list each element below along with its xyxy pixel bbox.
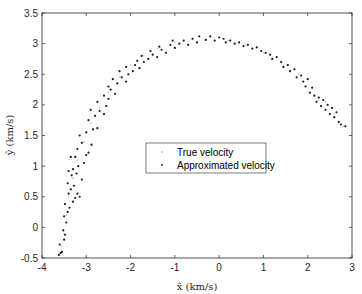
data-point: [141, 55, 143, 57]
data-point: [121, 76, 123, 78]
data-point: [329, 113, 331, 115]
data-point: [234, 43, 236, 45]
data-point: [76, 193, 78, 195]
x-tick-label: 1: [261, 262, 267, 273]
data-point: [75, 172, 77, 174]
data-point: [62, 229, 64, 231]
data-point: [79, 196, 81, 198]
data-point: [134, 64, 136, 66]
data-point: [65, 221, 67, 223]
data-point: [110, 88, 112, 90]
data-point: [143, 61, 145, 63]
data-point: [81, 142, 83, 144]
data-point: [335, 111, 337, 113]
data-point: [87, 119, 89, 121]
data-point: [320, 105, 322, 107]
data-point: [331, 107, 333, 109]
data-point: [160, 49, 162, 51]
legend-label-approximated-velocity: Approximated velocity: [177, 160, 275, 171]
data-point: [222, 38, 224, 40]
y-tick-label: 3: [32, 38, 38, 49]
data-point: [247, 44, 249, 46]
data-point: [125, 81, 127, 83]
y-tick-label: 0: [32, 222, 38, 233]
data-point: [298, 73, 300, 75]
legend-marker-true-velocity: [161, 151, 163, 153]
data-point: [94, 115, 96, 117]
y-tick-label: -0.5: [21, 253, 39, 264]
data-point: [333, 116, 335, 118]
data-point: [90, 122, 92, 124]
data-point: [322, 99, 324, 101]
data-point: [245, 45, 247, 47]
data-point: [315, 101, 317, 103]
data-point: [229, 39, 231, 41]
data-point: [149, 50, 151, 52]
legend: True velocity Approximated velocity: [146, 143, 275, 173]
data-point: [67, 211, 69, 213]
data-point: [112, 78, 114, 80]
data-point: [67, 170, 69, 172]
data-point: [165, 52, 167, 54]
data-point: [287, 64, 289, 66]
data-point: [172, 39, 174, 41]
data-point: [196, 41, 198, 43]
y-axis-label: ŷ (km/s): [4, 115, 15, 157]
data-point: [96, 101, 98, 103]
data-point: [73, 185, 75, 187]
data-point: [174, 47, 176, 49]
legend-marker-approximated-velocity: [161, 164, 163, 166]
data-point: [214, 39, 216, 41]
x-tick-label: 3: [349, 262, 355, 273]
data-point: [66, 214, 68, 216]
x-tick-label: -3: [82, 262, 91, 273]
data-point: [143, 55, 145, 57]
y-tick-label: 1: [32, 161, 38, 172]
x-tick-label: -1: [170, 262, 179, 273]
x-tick-label: 2: [305, 262, 311, 273]
data-point: [242, 45, 244, 47]
y-tick-label: 2.5: [24, 69, 38, 80]
x-tick-label: -4: [38, 262, 47, 273]
data-point: [209, 35, 211, 37]
data-point: [79, 134, 81, 136]
data-point: [300, 74, 302, 76]
data-point: [340, 123, 342, 125]
data-point: [68, 207, 70, 209]
y-tick-label: 1.5: [24, 130, 38, 141]
data-point: [77, 159, 79, 161]
data-point: [107, 85, 109, 87]
data-point: [125, 66, 127, 68]
data-point: [302, 81, 304, 83]
data-point: [114, 93, 116, 95]
data-point: [227, 40, 229, 42]
data-point: [169, 44, 171, 46]
data-point: [68, 196, 70, 198]
data-point: [158, 46, 160, 48]
data-point: [174, 42, 176, 44]
data-point: [70, 188, 72, 190]
data-point: [83, 141, 85, 143]
data-point: [127, 73, 129, 75]
x-tick-label: -2: [126, 262, 135, 273]
data-point: [105, 105, 107, 107]
data-point: [91, 144, 93, 146]
data-point: [61, 251, 63, 253]
data-point: [289, 70, 291, 72]
data-point: [61, 245, 63, 247]
data-point: [265, 52, 267, 54]
data-point: [225, 41, 227, 43]
data-point: [183, 39, 185, 41]
data-point: [98, 110, 100, 112]
data-point: [307, 78, 309, 80]
data-point: [132, 70, 134, 72]
y-tick-label: 2: [32, 99, 38, 110]
data-point: [83, 162, 85, 164]
data-point: [338, 121, 340, 123]
data-point: [63, 239, 65, 241]
scatter-chart: -4-3-2-10123 -0.500.511.522.533.5 x̂ (km…: [0, 0, 362, 294]
data-point: [251, 47, 253, 49]
data-point: [276, 56, 278, 58]
data-point: [72, 201, 74, 203]
data-point: [59, 243, 61, 245]
